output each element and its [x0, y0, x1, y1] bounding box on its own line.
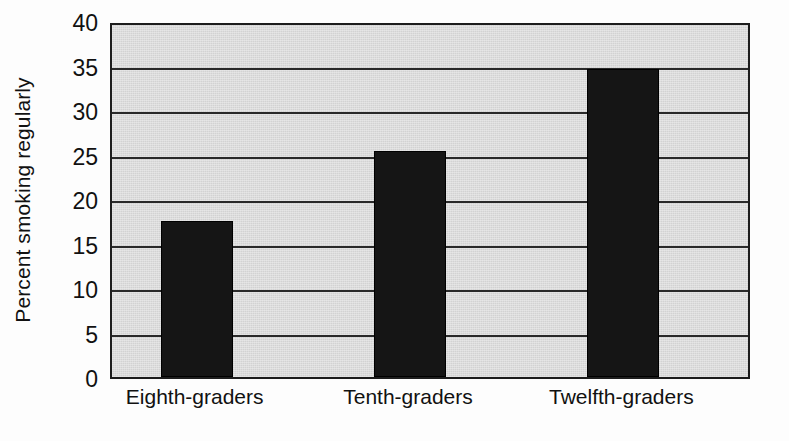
y-axis-tick-label: 25	[72, 145, 98, 168]
x-axis-tick-label: Twelfth-graders	[549, 385, 694, 409]
y-axis-tick-label: 0	[85, 368, 98, 391]
y-axis-title: Percent smoking regularly	[11, 77, 35, 322]
y-axis-title-container: Percent smoking regularly	[0, 0, 46, 400]
bar-series	[112, 25, 748, 377]
x-axis-tick-label: Eighth-graders	[126, 385, 264, 409]
x-axis-tick-label: Tenth-graders	[343, 385, 473, 409]
y-axis-tick-label: 30	[72, 101, 98, 124]
y-axis-tick-label: 5	[85, 323, 98, 346]
bar	[161, 221, 233, 377]
y-axis-tick-label: 10	[72, 279, 98, 302]
bar	[374, 151, 446, 377]
y-axis-tick-label: 15	[72, 234, 98, 257]
y-axis-tick-label: 35	[72, 56, 98, 79]
bar	[587, 69, 659, 377]
plot-area	[110, 23, 750, 379]
x-axis-tick-labels: Eighth-gradersTenth-gradersTwelfth-grade…	[110, 385, 750, 425]
y-axis-tick-label: 20	[72, 190, 98, 213]
y-axis-tick-label: 40	[72, 12, 98, 35]
bar-chart-figure: Percent smoking regularly 05101520253035…	[0, 0, 789, 441]
y-axis-tick-labels: 0510152025303540	[46, 23, 106, 379]
